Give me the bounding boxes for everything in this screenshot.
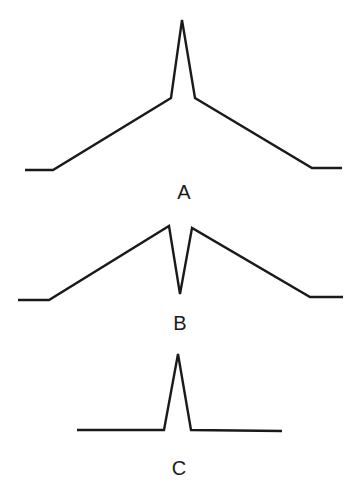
line-shape-diagram: A B C: [0, 0, 356, 492]
panel-c: C: [77, 354, 282, 479]
label-b: B: [173, 312, 186, 334]
label-a: A: [177, 181, 191, 203]
panel-b: B: [18, 226, 343, 334]
trace-c: [77, 354, 282, 431]
trace-b: [18, 226, 343, 300]
trace-a: [25, 20, 342, 170]
panel-a: A: [25, 20, 342, 203]
label-c: C: [172, 457, 186, 479]
